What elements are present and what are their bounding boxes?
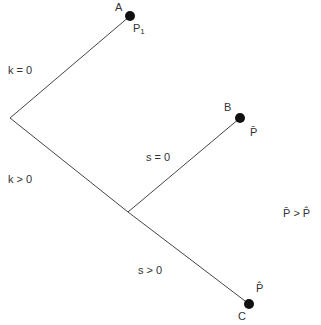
branch-label-k-positive: k > 0 [8, 173, 32, 185]
node-a-dot [125, 11, 135, 21]
node-c-dot [244, 299, 254, 309]
branch-label-s-zero: s = 0 [146, 151, 170, 163]
node-b-payoff: P̄ [250, 126, 257, 138]
node-c-label: C [238, 310, 246, 322]
branch-s-zero [128, 118, 240, 212]
node-c-payoff: P̂ [256, 282, 263, 294]
branch-label-s-positive: s > 0 [138, 264, 162, 276]
condition-label: P̄ > P̂ [283, 207, 310, 219]
node-b-label: B [224, 101, 231, 113]
branch-k-positive [10, 118, 128, 212]
branch-label-k-zero: k = 0 [8, 64, 32, 76]
node-a-payoff-subscript: 1 [140, 27, 144, 36]
node-a-label: A [115, 1, 122, 13]
branch-s-positive [128, 212, 249, 304]
node-b-dot [235, 113, 245, 123]
node-a-payoff: P1 [133, 22, 145, 38]
